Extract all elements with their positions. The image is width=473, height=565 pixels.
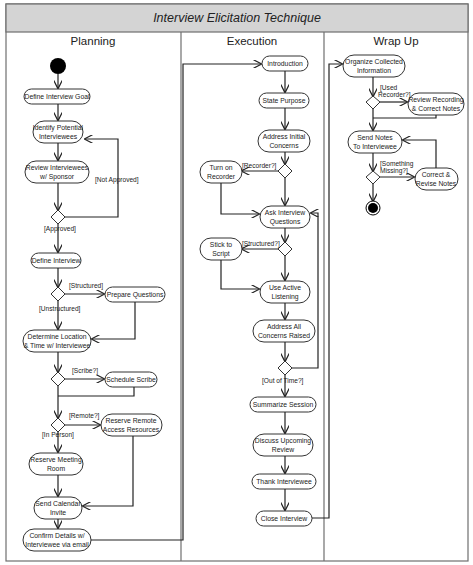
svg-text:Stick to: Stick to [210,241,233,248]
svg-text:Thank Interviewee: Thank Interviewee [256,478,312,485]
svg-text:Interviewee via email: Interviewee via email [25,541,89,548]
node-correct-revise: Correct & Revise Notes [415,168,458,190]
node-summarize: Summarize Session [250,397,316,412]
svg-text:State Purpose: State Purpose [262,97,305,105]
node-define-goal: Define Interview Goal [24,89,90,104]
node-determine-location: Determine Location & Time w/ Interviewee [23,330,91,352]
guard-structured: [Structured] [69,282,103,290]
svg-text:Questions: Questions [270,218,301,226]
node-schedule-scribe: Schedule Scribe [105,372,157,387]
svg-text:Room: Room [47,465,65,472]
node-organize: Organize Collected Information [343,55,405,77]
diagram-title: Interview Elicitation Technique [153,11,321,25]
svg-text:Review Interviewees: Review Interviewees [26,164,89,171]
svg-text:Information: Information [357,67,391,74]
svg-text:Send Calendar: Send Calendar [35,500,81,507]
guard-approved: [Approved] [44,225,76,233]
svg-text:Correct &: Correct & [422,171,451,178]
svg-text:Send Notes: Send Notes [357,134,393,141]
svg-text:& Time w/ Interviewee: & Time w/ Interviewee [24,342,91,349]
node-discuss-review: Discuss Upcoming Review [253,434,313,456]
node-review-sponsor: Review Interviewees w/ Sponsor [25,161,89,183]
node-send-invite: Send Calendar Invite [34,497,82,519]
svg-text:Concerns Raised: Concerns Raised [258,332,310,339]
node-identify-interviewees: Identify Potential Interviewees [33,121,84,143]
guard-unstructured: [Unstructured] [39,305,81,313]
svg-text:Concerns: Concerns [269,142,299,149]
svg-text:Determine Location: Determine Location [28,333,87,340]
svg-text:w/ Sponsor: w/ Sponsor [39,173,75,181]
svg-text:Review: Review [272,446,294,453]
guard-recorder: [Recorder?] [242,162,277,170]
node-introduction: Introduction [262,56,308,71]
lane-title-wrap-up: Wrap Up [373,35,418,47]
svg-text:Revise Notes: Revise Notes [416,180,457,187]
svg-text:Prepare Questions: Prepare Questions [107,291,164,299]
node-close-interview: Close Interview [256,511,312,526]
guard-scribe: [Scribe?] [72,367,98,375]
final-node-icon [366,201,380,215]
node-review-recording: Review Recording & Correct Notes [408,93,464,115]
guard-out-of-time: [Out of Time?] [262,377,304,385]
node-prepare-questions: Prepare Questions [105,287,165,302]
node-state-purpose: State Purpose [259,93,309,108]
svg-text:Identify Potential: Identify Potential [33,124,84,132]
svg-text:Introduction: Introduction [267,60,303,67]
node-reserve-room: Reserve Meeting Room [29,453,83,475]
svg-text:Address Initial: Address Initial [263,133,306,140]
guard-something-missing-2: Missing?] [380,167,408,175]
guard-used-recorder-2: Recorder?] [378,91,411,99]
node-stick-to-script: Stick to Script [200,238,242,260]
svg-text:Interviewees: Interviewees [39,133,78,140]
svg-text:Schedule Scribe: Schedule Scribe [106,376,156,383]
lane-title-execution: Execution [227,35,278,47]
svg-text:Confirm Details w/: Confirm Details w/ [29,532,84,539]
svg-text:Define Interview Goal: Define Interview Goal [25,93,90,100]
node-send-notes: Send Notes To Interviewee [348,131,402,153]
lane-title-planning: Planning [71,35,116,47]
guard-not-approved: [Not Approved] [95,176,139,184]
node-turn-on-recorder: Turn on Recorder [200,161,242,183]
svg-text:Organize Collected: Organize Collected [345,58,403,66]
svg-text:Define Interview: Define Interview [32,257,81,264]
node-define-interview: Define Interview [31,253,81,268]
svg-text:Review Recording: Review Recording [408,96,463,104]
svg-text:To Interviewee: To Interviewee [353,143,397,150]
node-address-initial: Address Initial Concerns [258,130,310,152]
guard-remote: [Remote?] [69,412,100,420]
svg-text:Address All: Address All [267,323,301,330]
node-address-all: Address All Concerns Raised [253,320,315,342]
node-ask-questions: Ask Interview Questions [260,206,310,228]
svg-text:Recorder: Recorder [207,173,236,180]
svg-text:Close Interview: Close Interview [261,515,308,522]
node-confirm-details: Confirm Details w/ Interviewee via email [23,529,91,551]
activity-diagram: Interview Elicitation Technique Planning… [0,0,473,565]
svg-text:Reserve Remote: Reserve Remote [106,417,157,424]
svg-text:& Correct Notes: & Correct Notes [412,105,461,112]
svg-text:Reserve Meeting: Reserve Meeting [30,456,82,464]
svg-text:Listening: Listening [271,293,298,301]
node-thank: Thank Interviewee [252,474,316,489]
svg-text:Invite: Invite [50,509,66,516]
guard-structured-q: [Structured?] [242,240,280,248]
svg-text:Access Resources: Access Resources [103,426,160,433]
svg-text:Turn on: Turn on [209,164,232,171]
svg-text:Discuss Upcoming: Discuss Upcoming [255,437,311,445]
start-node-icon [50,58,66,74]
node-reserve-remote: Reserve Remote Access Resources [101,414,162,436]
svg-text:Script: Script [212,250,229,258]
node-active-listening: Use Active Listening [260,281,310,303]
svg-text:Ask Interview: Ask Interview [265,209,306,216]
svg-text:Summarize Session: Summarize Session [253,401,314,408]
svg-text:Use Active: Use Active [269,284,301,291]
